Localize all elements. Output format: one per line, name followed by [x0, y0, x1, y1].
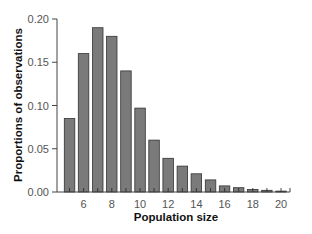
bar-8: [107, 36, 118, 192]
x-tick-label: 14: [190, 198, 202, 210]
bar-9: [121, 71, 132, 192]
y-tick-label: 0.15: [28, 56, 49, 68]
x-tick-label: 20: [275, 198, 287, 210]
y-tick-label: 0.00: [28, 186, 49, 198]
bar-6: [78, 54, 89, 192]
bar-11: [149, 140, 160, 192]
bar-5: [64, 119, 75, 193]
x-tick-label: 8: [109, 198, 115, 210]
y-axis-title: Proportions of observations: [12, 28, 24, 182]
bar-12: [163, 158, 174, 192]
x-axis-title: Population size: [134, 211, 218, 223]
y-tick-label: 0.05: [28, 143, 49, 155]
x-tick-label: 6: [81, 198, 87, 210]
y-tick-label: 0.20: [28, 13, 49, 25]
bars-group: [64, 28, 286, 192]
bar-chart: 0.000.050.100.150.2068101214161820Popula…: [0, 0, 312, 234]
bar-7: [93, 28, 104, 192]
x-tick-label: 12: [162, 198, 174, 210]
bar-10: [135, 108, 146, 192]
x-tick-label: 10: [134, 198, 146, 210]
y-tick-label: 0.10: [28, 100, 49, 112]
x-tick-label: 16: [218, 198, 230, 210]
x-tick-label: 18: [247, 198, 259, 210]
